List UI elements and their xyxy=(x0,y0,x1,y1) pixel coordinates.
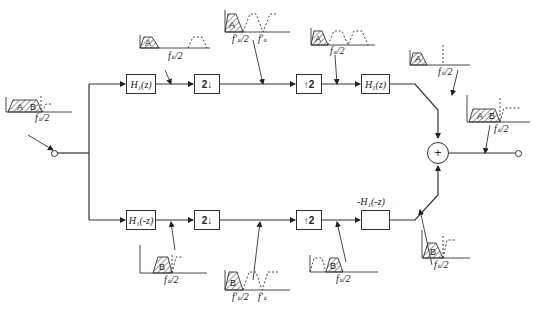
upper-decimator-block: 2↓ xyxy=(194,74,220,94)
summing-node: + xyxy=(427,142,449,164)
freq-label-upper-interpolated: fₛ/2 xyxy=(330,45,345,56)
freq-label-lower-filter: fₛ/2 xyxy=(164,274,179,285)
band-b-lower-interpolated: B xyxy=(330,261,336,271)
spectrum-lower-filter xyxy=(140,245,207,273)
band-b-input: B xyxy=(30,102,36,112)
band-a-upper-filter: A xyxy=(145,38,151,48)
freq-label-lower-decimated-full: f′ₛ xyxy=(258,291,267,302)
freq-label-upper-filter: fₛ/2 xyxy=(168,50,183,61)
band-b-output: B xyxy=(489,111,495,121)
band-a-input: A xyxy=(17,102,23,112)
spectrum-lower-interpolated xyxy=(310,255,378,272)
freq-label-output: fₛ/2 xyxy=(494,123,509,134)
upper-synthesis-filter-block: H₁(z) xyxy=(361,74,390,94)
lower-decimator-block: 2↓ xyxy=(194,210,220,230)
lower-interpolator-block: ↑2 xyxy=(296,210,322,230)
band-a-upper-interpolated: A xyxy=(315,34,321,44)
band-b-lower-decimated: B xyxy=(230,278,236,288)
freq-label-lower-synthesis: fₛ/2 xyxy=(434,259,449,270)
freq-label-upper-decimated-full: f′ₛ xyxy=(258,33,267,44)
upper-analysis-filter-block: H₁(z) xyxy=(126,74,156,94)
output-terminal xyxy=(515,150,522,157)
band-a-output: A xyxy=(477,111,483,121)
band-a-upper-synthesis: A xyxy=(415,54,421,64)
upper-interpolator-block: ↑2 xyxy=(296,74,322,94)
freq-label-lower-decimated-half: f′ₛ/2 xyxy=(232,291,249,302)
freq-label-upper-synthesis: fₛ/2 xyxy=(438,66,453,77)
freq-label-lower-interpolated: fₛ/2 xyxy=(336,273,351,284)
band-b-lower-filter: B xyxy=(159,262,165,272)
spectrum-input xyxy=(6,96,72,112)
lower-synthesis-filter-block xyxy=(361,210,390,230)
band-b-lower-synthesis: B xyxy=(430,247,436,257)
lower-analysis-filter-block: H₁(-z) xyxy=(126,210,156,230)
freq-label-upper-decimated-half: f′ₛ/2 xyxy=(232,33,249,44)
freq-label-input: fₛ/2 xyxy=(35,112,50,123)
input-terminal xyxy=(51,150,58,157)
lower-synthesis-filter-label: -H₁(-z) xyxy=(357,196,385,207)
band-a-upper-decimated: A xyxy=(229,20,235,30)
qmf-filter-bank-diagram: A B A A A A A B B B B B xyxy=(0,0,539,309)
